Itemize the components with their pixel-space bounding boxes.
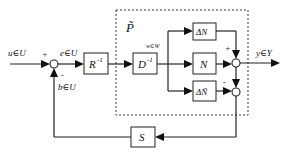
svg-text:-1: -1	[97, 56, 103, 64]
sign-minus: -	[223, 78, 226, 87]
svg-text:ΔN: ΔN	[195, 27, 208, 37]
sign-plus: +	[42, 50, 47, 59]
sign-plus: +	[225, 44, 230, 53]
summing-junction-1	[50, 60, 58, 68]
svg-text:N: N	[199, 58, 208, 70]
arrow-icon	[223, 60, 232, 68]
arrow-icon	[50, 68, 58, 77]
signal-y-label: y∈Y	[255, 48, 273, 58]
arrow-icon	[41, 60, 50, 68]
block-d-inverse: D -1	[133, 53, 157, 74]
arrow-icon	[75, 60, 84, 68]
block-n: N	[193, 53, 216, 74]
signal-e-label: e∈U	[60, 48, 78, 58]
signal-w-label: w∈W	[146, 43, 160, 49]
signal-b-label: b∈U	[58, 82, 76, 92]
arrow-icon	[184, 27, 193, 35]
arrow-icon	[184, 60, 193, 68]
arrow-icon	[184, 87, 193, 95]
plant-group-label: P̃	[125, 20, 134, 35]
block-r-inverse: R -1	[84, 53, 108, 74]
block-diagram: P̃ u∈U + e∈U R -1 D -1 w∈W ΔN N	[0, 0, 289, 155]
arrow-icon	[223, 87, 232, 95]
arrow-icon	[232, 50, 240, 59]
block-delta-n-tilde: ΔÑ	[193, 81, 216, 101]
sign-minus: -	[61, 71, 64, 80]
svg-text:D: D	[137, 58, 146, 70]
arrow-icon	[271, 59, 280, 67]
block-s: S	[131, 127, 155, 147]
arrow-icon	[155, 133, 164, 141]
arrow-icon	[232, 79, 240, 88]
svg-text:-1: -1	[147, 56, 153, 64]
svg-text:S: S	[139, 131, 145, 143]
summing-junction-2	[232, 59, 240, 67]
svg-text:R: R	[88, 58, 96, 70]
block-delta-n: ΔN	[193, 23, 216, 40]
svg-text:ΔÑ: ΔÑ	[195, 87, 208, 97]
summing-junction-3	[232, 88, 240, 96]
arrow-icon	[124, 60, 133, 68]
signal-u-label: u∈U	[8, 48, 26, 58]
